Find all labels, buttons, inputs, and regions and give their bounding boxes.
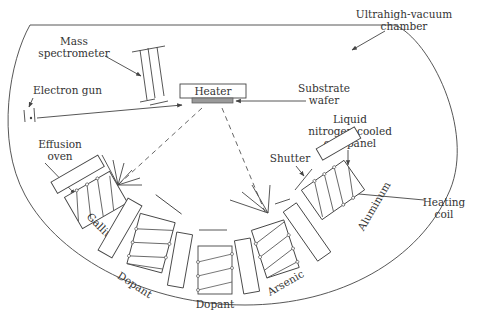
svg-text:Heater: Heater	[194, 85, 232, 97]
spacer-block	[167, 232, 192, 288]
svg-text:Mass: Mass	[60, 35, 88, 47]
svg-text:Effusion: Effusion	[38, 138, 82, 150]
svg-text:coil: coil	[435, 208, 455, 220]
svg-text:wafer: wafer	[309, 94, 340, 106]
svg-text:Dopant: Dopant	[196, 298, 235, 310]
shutter-label: Shutter	[270, 152, 311, 176]
chamber-label: Ultrahigh-vacuum chamber	[352, 8, 452, 50]
chamber-wall	[8, 25, 457, 305]
svg-text:Liquid: Liquid	[333, 113, 367, 125]
spacer-block	[234, 238, 259, 294]
dopant-2-source: Dopant	[196, 230, 235, 310]
svg-text:Dopant: Dopant	[115, 269, 155, 301]
svg-text:spectrometer: spectrometer	[38, 47, 110, 59]
svg-text:Electron gun: Electron gun	[33, 84, 102, 96]
molecular-beams	[118, 108, 265, 212]
mbe-diagram: Ultrahigh-vacuum chamber Mass spectromet…	[0, 0, 485, 315]
arsenic-beam-spray	[230, 185, 290, 213]
svg-text:chamber: chamber	[381, 20, 429, 32]
svg-text:Ultrahigh-vacuum: Ultrahigh-vacuum	[356, 8, 452, 20]
svg-text:oven: oven	[47, 150, 72, 162]
svg-text:Heating: Heating	[423, 196, 466, 208]
svg-text:Substrate: Substrate	[298, 82, 350, 94]
heater: Heater	[180, 84, 246, 98]
svg-text:Shutter: Shutter	[270, 152, 311, 164]
